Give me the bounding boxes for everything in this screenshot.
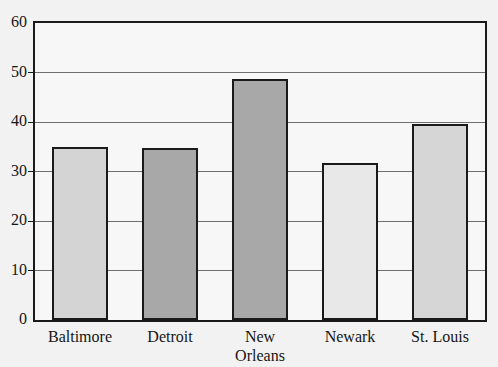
bar [52, 147, 108, 320]
y-axis-label: 30 [0, 163, 27, 179]
y-axis-tick [28, 122, 34, 123]
chart-title [0, 0, 498, 2]
bar-chart: 0102030405060 BaltimoreDetroitNew Orlean… [0, 0, 498, 367]
y-axis-label: 40 [0, 113, 27, 129]
x-axis-label: Baltimore [35, 327, 125, 346]
bar [412, 124, 468, 320]
x-axis-label: New Orleans [215, 327, 305, 365]
plot-inner [35, 23, 485, 320]
x-axis-label: Detroit [125, 327, 215, 346]
y-axis-tick [28, 171, 34, 172]
y-axis-tick [28, 270, 34, 271]
gridline [35, 72, 485, 73]
y-axis-label: 10 [0, 262, 27, 278]
y-axis-label: 50 [0, 64, 27, 80]
y-axis-label: 60 [0, 14, 27, 30]
bar [232, 79, 288, 320]
plot-area [33, 21, 487, 322]
y-axis-tick [28, 72, 34, 73]
bar [142, 148, 198, 320]
y-axis-tick [28, 221, 34, 222]
x-axis-label: Newark [305, 327, 395, 346]
y-axis-label: 20 [0, 212, 27, 228]
bar [322, 163, 378, 320]
y-axis-label: 0 [0, 311, 27, 327]
x-axis-label: St. Louis [395, 327, 485, 346]
